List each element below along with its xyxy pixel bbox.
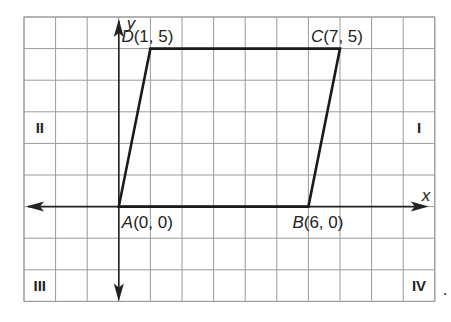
vertex-coords: (6, 0) <box>304 213 344 232</box>
coordinate-plane: xy A(0, 0)B(6, 0)C(7, 5)D(1, 5)IIIIIIIV. <box>0 0 451 322</box>
x-axis-label: x <box>421 186 431 205</box>
parallelogram <box>119 49 340 207</box>
vertex-name: D <box>121 27 133 46</box>
grid-border <box>24 17 435 301</box>
grid <box>24 17 435 301</box>
trailing-period: . <box>443 280 448 299</box>
quadrant-label-I: I <box>417 119 421 136</box>
vertex-name: A <box>121 213 133 232</box>
labels: A(0, 0)B(6, 0)C(7, 5)D(1, 5)IIIIIIIV. <box>34 27 448 300</box>
quadrant-label-III: III <box>34 277 47 294</box>
vertex-name: B <box>292 213 303 232</box>
vertex-coords: (1, 5) <box>134 27 174 46</box>
vertex-coords: (0, 0) <box>133 213 173 232</box>
vertex-label-D: D(1, 5) <box>121 27 173 46</box>
vertex-label-A: A(0, 0) <box>121 213 173 232</box>
parallelogram-outline <box>119 49 340 207</box>
vertex-label-C: C(7, 5) <box>311 27 363 46</box>
vertex-name: C <box>311 27 324 46</box>
vertex-coords: (7, 5) <box>323 27 363 46</box>
vertex-label-B: B(6, 0) <box>292 213 343 232</box>
quadrant-label-IV: IV <box>412 277 426 294</box>
quadrant-label-II: II <box>36 119 44 136</box>
